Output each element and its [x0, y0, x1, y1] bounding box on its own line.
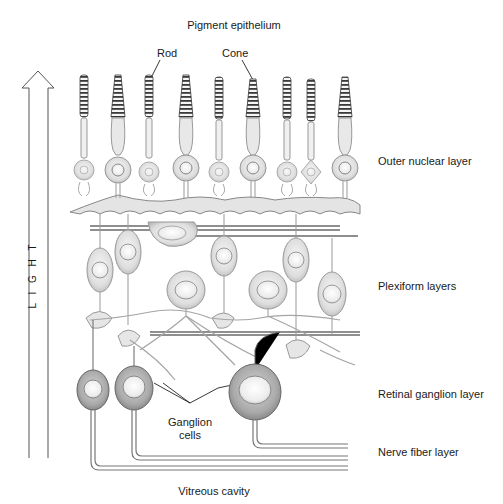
rod-cell	[209, 77, 229, 196]
nerve-fibers	[91, 410, 348, 470]
ganglion-cells-label-line2: cells	[179, 430, 201, 441]
amacrine-cells	[86, 271, 310, 358]
cone-cell	[173, 75, 199, 198]
cone-cell	[105, 75, 131, 198]
cone-cell	[332, 77, 358, 198]
pigment-epithelium-label: Pigment epithelium	[187, 20, 281, 31]
rod-cell	[74, 75, 94, 196]
ganglion-cells-label-line1: Ganglion	[168, 417, 212, 428]
retina-diagram	[0, 0, 503, 504]
horizontal-cell	[148, 222, 197, 246]
photoreceptor-synaptic-base	[70, 195, 360, 214]
nerve-fiber-layer-label: Nerve fiber layer	[378, 447, 459, 458]
rod-cell	[301, 79, 321, 196]
cone-label: Cone	[222, 48, 248, 59]
rod-cell	[277, 77, 297, 196]
retinal-ganglion-layer-label: Retinal ganglion layer	[378, 389, 484, 400]
rod-label: Rod	[157, 48, 177, 59]
rod-cell	[139, 75, 159, 196]
outer-nuclear-layer-label: Outer nuclear layer	[378, 156, 472, 167]
light-label: L I G H T	[27, 241, 38, 308]
vitreous-cavity-label: Vitreous cavity	[178, 486, 249, 497]
photoreceptors	[74, 75, 358, 198]
plexiform-layers-label: Plexiform layers	[378, 281, 456, 292]
cone-cell	[240, 79, 266, 198]
